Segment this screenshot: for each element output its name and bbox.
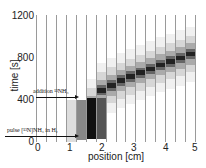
grid-line bbox=[185, 15, 186, 142]
grid-line bbox=[135, 15, 136, 142]
y-tick-0: 0 bbox=[28, 136, 34, 147]
grid-line bbox=[155, 15, 156, 142]
arrow-pulse-icon bbox=[5, 136, 76, 137]
arrow-addition-icon bbox=[36, 97, 76, 98]
grid-line bbox=[116, 15, 117, 142]
grid-line bbox=[86, 15, 87, 142]
grid-line bbox=[56, 15, 57, 142]
x-tick-4: 4 bbox=[163, 142, 169, 153]
x-tick-5: 5 bbox=[192, 142, 198, 153]
x-tick-0: 0 bbox=[35, 142, 41, 153]
plot-area bbox=[36, 15, 195, 142]
y-tick-1200: 1200 bbox=[12, 10, 34, 21]
grid-line bbox=[66, 15, 67, 142]
y-tick-400: 400 bbox=[17, 94, 34, 105]
annotation-addition: addition ¹³NH₃ bbox=[33, 88, 69, 94]
grid-line bbox=[195, 15, 196, 142]
grid-line bbox=[76, 15, 77, 142]
grid-line bbox=[145, 15, 146, 142]
grid-line bbox=[46, 15, 47, 142]
grid-line bbox=[36, 15, 37, 142]
grid-line bbox=[96, 15, 97, 142]
grid-line bbox=[165, 15, 166, 142]
annotation-pulse: pulse [¹³N]NH₃ in H₂ bbox=[7, 127, 58, 133]
grid-line bbox=[125, 15, 126, 142]
grid-line bbox=[175, 15, 176, 142]
x-axis-label: position [cm] bbox=[88, 151, 144, 162]
y-tick-800: 800 bbox=[17, 52, 34, 63]
x-tick-1: 1 bbox=[67, 142, 73, 153]
y-axis-label: time [s] bbox=[9, 59, 20, 91]
grid-line bbox=[106, 15, 107, 142]
